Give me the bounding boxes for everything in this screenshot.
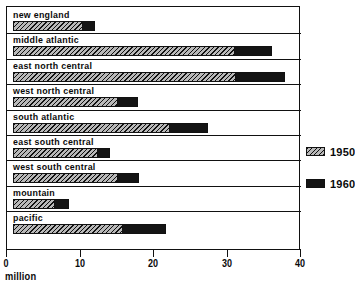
- bar-group: [13, 199, 69, 209]
- bar-group: [13, 72, 285, 82]
- category-label: west north central: [13, 85, 94, 96]
- bar-group: [13, 224, 166, 234]
- bar-segment-1960: [169, 123, 207, 133]
- chart-band: pacific: [7, 211, 301, 236]
- chart-band: east south central: [7, 135, 301, 160]
- bar-segment-1960: [234, 46, 272, 56]
- chart-legend: 1950 1960: [306, 146, 353, 210]
- bar-segment-1950: [13, 173, 118, 183]
- axis-tick-mark: [153, 249, 154, 257]
- bar-segment-1950: [13, 123, 170, 133]
- category-label: pacific: [13, 212, 43, 223]
- legend-item-1950: 1950: [306, 146, 353, 159]
- bar-segment-1950: [13, 148, 98, 158]
- axis-tick-mark: [6, 249, 7, 257]
- category-label: east north central: [13, 60, 92, 71]
- plot-area: new englandmiddle atlanticeast north cen…: [6, 6, 300, 249]
- x-axis-unit-label: million: [5, 271, 36, 282]
- category-label: mountain: [13, 187, 55, 198]
- axis-tick-label: 30: [221, 258, 231, 269]
- bar-segment-1950: [13, 21, 83, 31]
- bar-group: [13, 97, 138, 107]
- category-label: new england: [13, 9, 70, 20]
- bar-group: [13, 123, 208, 133]
- axis-tick-label: 0: [3, 258, 8, 269]
- bar-group: [13, 173, 139, 183]
- bar-group: [13, 46, 272, 56]
- chart-band: south atlantic: [7, 110, 301, 135]
- legend-swatch-1960-icon: [306, 179, 325, 188]
- chart-band: west north central: [7, 84, 301, 109]
- bar-segment-1960: [235, 72, 285, 82]
- axis-tick-label: 10: [74, 258, 84, 269]
- axis-tick-label: 40: [295, 258, 305, 269]
- legend-label-1950: 1950: [330, 146, 355, 158]
- category-label: east south central: [13, 136, 94, 147]
- bar-segment-1950: [13, 46, 235, 56]
- legend-item-1960: 1960: [306, 178, 353, 191]
- axis-tick-mark: [80, 249, 81, 257]
- chart-band: new england: [7, 8, 301, 33]
- bar-segment-1950: [13, 72, 236, 82]
- chart-band: middle atlantic: [7, 33, 301, 58]
- bar-segment-1950: [13, 97, 118, 107]
- category-label: middle atlantic: [13, 34, 79, 45]
- bar-group: [13, 148, 110, 158]
- chart-band: west south central: [7, 160, 301, 185]
- category-label: west south central: [13, 161, 96, 172]
- bar-segment-1960: [117, 97, 138, 107]
- bar-segment-1960: [117, 173, 139, 183]
- bar-segment-1960: [82, 21, 95, 31]
- chart-band: mountain: [7, 186, 301, 211]
- chart-band: east north central: [7, 59, 301, 84]
- axis-tick-mark: [227, 249, 228, 257]
- legend-label-1960: 1960: [330, 178, 355, 190]
- bar-group: [13, 21, 95, 31]
- axis-tick-label: 20: [148, 258, 158, 269]
- bar-segment-1960: [54, 199, 69, 209]
- legend-swatch-1950-icon: [306, 147, 325, 156]
- bar-segment-1960: [122, 224, 166, 234]
- bar-segment-1950: [13, 199, 55, 209]
- bar-segment-1960: [97, 148, 110, 158]
- axis-tick-mark: [300, 249, 301, 257]
- category-label: south atlantic: [13, 111, 74, 122]
- bar-segment-1950: [13, 224, 123, 234]
